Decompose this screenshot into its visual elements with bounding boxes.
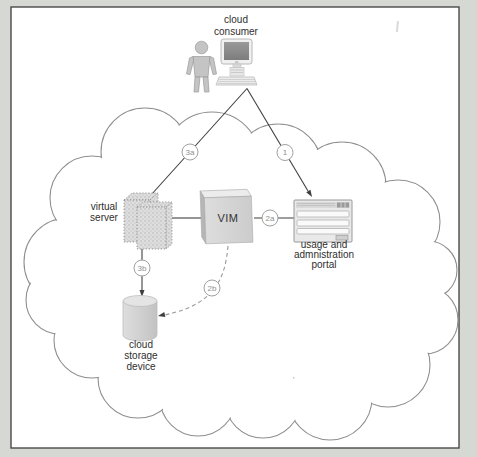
scan-artifact (397, 21, 398, 32)
usage-portal-label-line3: portal (311, 259, 336, 270)
badge-1: 1 (277, 145, 293, 161)
cloud-storage-label-line2: storage (124, 350, 158, 361)
cloud-consumer-label-line2: consumer (214, 26, 259, 37)
badge-2b-label: 2b (208, 284, 217, 293)
storage-cylinder-icon (123, 296, 157, 342)
cloud-storage-label-line3: device (127, 361, 156, 372)
badge-3a: 3a (182, 144, 198, 160)
node-cloud-storage: cloud storage device (123, 296, 158, 373)
badge-1-label: 1 (283, 148, 288, 157)
workstation-icon (216, 39, 257, 85)
node-usage-portal: usage and admnistration portal (294, 200, 354, 270)
node-vim: VIM (200, 189, 253, 244)
badge-2b: 2b (204, 280, 220, 296)
cloud-provisioning-diagram: 3a 1 2a 3b 2b cloud consumer (0, 0, 477, 457)
badge-2a-label: 2a (266, 214, 275, 223)
virtual-server-label-line1: virtual (91, 201, 118, 212)
virtual-server-label-line2: server (90, 212, 118, 223)
badge-3a-label: 3a (186, 148, 195, 157)
badge-3b: 3b (134, 260, 150, 276)
cloud-storage-label-line1: cloud (129, 339, 153, 350)
badge-2a: 2a (262, 210, 278, 226)
portal-window-icon (294, 200, 352, 242)
badge-3b-label: 3b (138, 264, 147, 273)
vim-label: VIM (217, 212, 238, 224)
cloud-consumer-label-line1: cloud (224, 14, 248, 25)
